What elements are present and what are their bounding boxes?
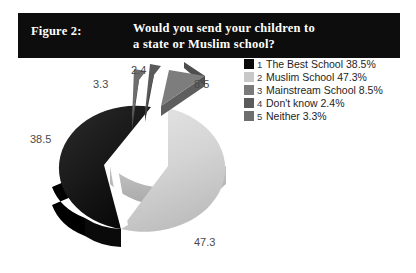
legend-index-5: 5 [257, 111, 266, 122]
legend-label-dont-know: Don't know 2.4% [266, 97, 344, 109]
pie-value-label-mainstream-school: 8.5 [194, 78, 209, 90]
legend-index-3: 3 [257, 85, 266, 96]
legend-item-neither: 5 Neither 3.3% [244, 110, 412, 122]
legend-item-best-school: 1 The Best School 38.5% [244, 58, 412, 70]
pie-value-label-muslim-school: 47.3 [194, 236, 215, 248]
legend-index-1: 1 [257, 59, 266, 70]
figure-title-line-2: a state or Muslim school? [133, 37, 315, 53]
legend-swatch-muslim-school [244, 72, 254, 82]
chart-legend: 1 The Best School 38.5% 2 Muslim School … [244, 58, 412, 123]
legend-index-4: 4 [257, 98, 266, 109]
legend-swatch-dont-know [244, 98, 254, 108]
pie-value-label-neither: 3.3 [93, 78, 108, 90]
legend-label-neither: Neither 3.3% [266, 110, 327, 122]
figure-title-line-1: Would you send your children to [133, 21, 315, 37]
legend-item-dont-know: 4 Don't know 2.4% [244, 97, 412, 109]
legend-item-muslim-school: 2 Muslim School 47.3% [244, 71, 412, 83]
legend-label-muslim-school: Muslim School 47.3% [266, 71, 367, 83]
figure-title-bar: Figure 2: Would you send your children t… [18, 13, 400, 58]
figure-title: Would you send your children to a state … [133, 21, 315, 52]
pie-value-label-dont-know: 2.4 [131, 64, 146, 76]
legend-item-mainstream-school: 3 Mainstream School 8.5% [244, 84, 412, 96]
legend-index-2: 2 [257, 72, 266, 83]
pie-slice-muslim-school [121, 108, 225, 232]
pie-chart-graphic [18, 62, 244, 262]
legend-swatch-neither [244, 111, 254, 121]
legend-label-best-school: The Best School 38.5% [266, 58, 376, 70]
legend-label-mainstream-school: Mainstream School 8.5% [266, 84, 383, 96]
figure-number-label: Figure 2: [31, 24, 82, 39]
legend-swatch-best-school [244, 59, 254, 69]
legend-swatch-mainstream-school [244, 85, 254, 95]
pie-value-label-best-school: 38.5 [30, 133, 51, 145]
